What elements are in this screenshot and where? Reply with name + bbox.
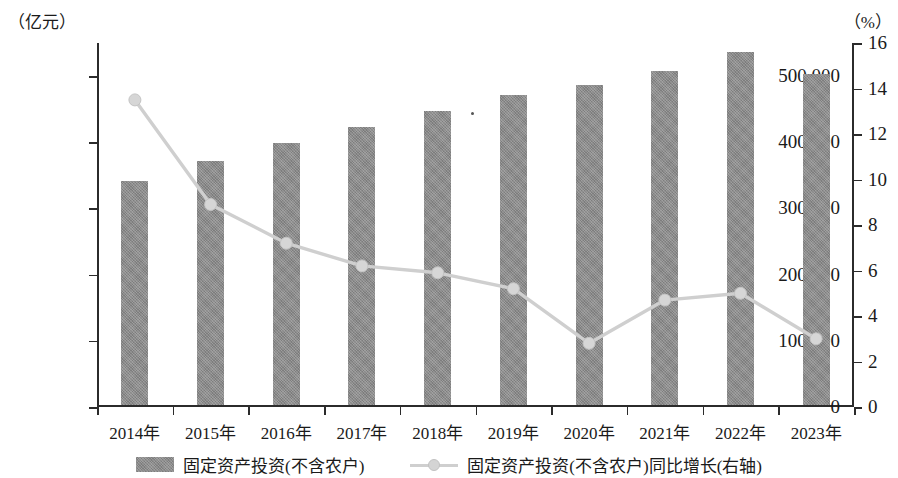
legend-item-bar: 固定资产投资(不含农户): [136, 452, 364, 477]
x-axis-tick: [476, 407, 478, 415]
growth-line-marker: [356, 260, 368, 272]
x-axis-tick: [778, 407, 780, 415]
right-axis-tick-label: 12: [868, 123, 887, 145]
x-axis-label: 2019年: [488, 419, 539, 444]
right-axis-tick-label: 2: [868, 351, 878, 373]
x-axis-label: 2014年: [109, 419, 160, 444]
x-axis-tick: [400, 407, 402, 415]
x-axis-tick: [324, 407, 326, 415]
right-axis-tick: [854, 134, 862, 136]
left-axis-tick: [89, 341, 97, 343]
growth-line-marker: [507, 283, 519, 295]
growth-line-marker: [205, 199, 217, 211]
right-axis-tick-label: 16: [868, 32, 887, 54]
x-axis-label: 2023年: [791, 419, 842, 444]
growth-line-marker: [659, 294, 671, 306]
growth-line-markers: [129, 94, 822, 349]
stray-speck-artifact: [471, 112, 474, 115]
right-axis-tick-label: 6: [868, 260, 878, 282]
right-axis-tick-label: 14: [868, 78, 887, 100]
left-axis-unit-label: （亿元）: [8, 8, 76, 33]
right-axis-tick-label: 0: [868, 396, 878, 418]
growth-line-marker: [810, 333, 822, 345]
right-axis-tick: [854, 43, 862, 45]
left-axis-tick: [89, 407, 97, 409]
growth-line-series: [97, 43, 854, 407]
line-swatch-icon: [410, 458, 458, 472]
legend-label-bar: 固定资产投资(不含农户): [183, 452, 364, 477]
right-axis-tick: [854, 225, 862, 227]
right-axis-tick: [854, 271, 862, 273]
left-axis-tick: [89, 76, 97, 78]
growth-line-marker: [735, 287, 747, 299]
x-axis-tick: [97, 407, 99, 415]
right-axis-tick-label: 10: [868, 169, 887, 191]
line-swatch-marker: [428, 459, 440, 471]
legend-item-line: 固定资产投资(不含农户)同比增长(右轴): [410, 452, 762, 477]
x-axis-label: 2021年: [639, 419, 690, 444]
right-axis-tick: [854, 89, 862, 91]
x-axis-label: 2015年: [185, 419, 236, 444]
right-axis-unit-label: （%）: [844, 8, 892, 33]
right-axis-tick: [854, 180, 862, 182]
x-axis-label: 2022年: [715, 419, 766, 444]
x-axis-tick: [551, 407, 553, 415]
left-axis-tick: [89, 208, 97, 210]
x-axis-tick: [173, 407, 175, 415]
growth-line-marker: [432, 267, 444, 279]
right-axis-tick-label: 8: [868, 214, 878, 236]
fixed-asset-investment-chart: （亿元） （%） 0100 000200 000300 000400 00050…: [0, 0, 898, 478]
growth-line-marker: [129, 94, 141, 106]
x-axis-tick: [627, 407, 629, 415]
x-axis-label: 2020年: [564, 419, 615, 444]
right-axis-tick: [854, 316, 862, 318]
x-axis-tick: [248, 407, 250, 415]
x-axis-tick: [854, 407, 856, 415]
plot-area: 0100 000200 000300 000400 000500 000 024…: [97, 43, 854, 407]
growth-line-path: [135, 100, 816, 343]
x-axis-label: 2017年: [336, 419, 387, 444]
growth-line-marker: [280, 237, 292, 249]
x-axis-label: 2016年: [261, 419, 312, 444]
x-axis-tick: [703, 407, 705, 415]
chart-legend: 固定资产投资(不含农户) 固定资产投资(不含农户)同比增长(右轴): [0, 452, 898, 477]
bar-swatch-icon: [136, 457, 174, 472]
right-axis-tick: [854, 362, 862, 364]
right-axis-tick-label: 4: [868, 305, 878, 327]
x-axis-label: 2018年: [412, 419, 463, 444]
legend-label-line: 固定资产投资(不含农户)同比增长(右轴): [467, 452, 762, 477]
growth-line-marker: [583, 337, 595, 349]
left-axis-tick: [89, 142, 97, 144]
left-axis-tick: [89, 275, 97, 277]
